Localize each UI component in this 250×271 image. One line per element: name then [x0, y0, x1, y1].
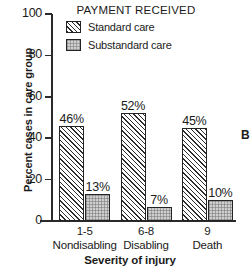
- x-axis-category-code: 9: [162, 225, 250, 239]
- bar-standard-care: 52%: [121, 113, 146, 221]
- x-axis-title: Severity of injury: [30, 254, 230, 266]
- y-axis-tick-label: 40: [16, 131, 42, 144]
- bar-standard-care: 46%: [59, 126, 84, 221]
- bar-substandard-care: 13%: [85, 194, 110, 221]
- legend-label-standard-care: Standard care: [88, 21, 155, 33]
- legend-item-standard-care: Standard care: [66, 20, 226, 34]
- bar-substandard-care: 7%: [147, 207, 172, 221]
- bar-value-label: 13%: [86, 181, 110, 194]
- bar-value-label: 10%: [208, 187, 232, 200]
- bar-value-label: 45%: [182, 115, 206, 128]
- bar-substandard-care: 10%: [208, 200, 233, 221]
- y-axis-tick-label: 60: [16, 90, 42, 103]
- legend-label-substandard-care: Substandard care: [88, 39, 172, 51]
- bar-value-label: 46%: [60, 113, 84, 126]
- y-axis-tick-label: 0: [16, 214, 42, 227]
- legend-swatch-substandard-care: [66, 39, 81, 51]
- bar-standard-care: 45%: [182, 128, 207, 221]
- y-axis-tick-label: 20: [16, 173, 42, 186]
- legend-title: PAYMENT RECEIVED: [68, 4, 204, 16]
- y-axis-tick-label: 80: [16, 48, 42, 61]
- bar-value-label: 7%: [150, 194, 167, 207]
- panel-letter: B: [241, 128, 250, 142]
- bar-value-label: 52%: [121, 100, 145, 113]
- x-axis-category-name: Death: [162, 239, 250, 253]
- bar-chart-figure: Percent cases in care group 020406080100…: [0, 0, 250, 271]
- y-axis-tick-label: 100: [16, 7, 42, 20]
- x-axis-category: 9Death: [162, 225, 250, 252]
- legend-swatch-standard-care: [66, 21, 81, 33]
- legend-item-substandard-care: Substandard care: [66, 38, 226, 52]
- legend: PAYMENT RECEIVED Standard care Substanda…: [66, 4, 226, 52]
